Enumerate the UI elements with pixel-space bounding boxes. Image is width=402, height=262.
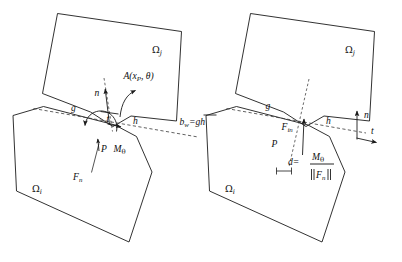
right-point-g-label: g xyxy=(266,100,271,111)
right-tangent-vector-arrow xyxy=(357,138,377,143)
figure-container: n t A(xP, θ) g h Mθ P Fn xyxy=(0,0,402,262)
left-tangent-vector-label: t xyxy=(107,113,110,124)
left-moment-label: Mθ xyxy=(113,143,126,156)
right-upper-domain-polygon xyxy=(236,14,375,127)
right-point-P-label: P xyxy=(271,138,278,149)
left-lower-domain-polygon xyxy=(13,107,152,243)
right-normal-vector-label: n xyxy=(364,109,369,120)
right-fraction-numerator: Mθ xyxy=(311,151,324,164)
left-rotation-operator-label: A(xP, θ) xyxy=(123,70,154,82)
contact-mechanics-diagram: n t A(xP, θ) g h Mθ P Fn xyxy=(0,0,402,262)
equation-text: bw=gh xyxy=(180,116,206,128)
rotation-op-head: A(x xyxy=(123,70,138,82)
right-interface-force-label: Fin xyxy=(281,121,294,133)
left-normal-force-leader xyxy=(92,144,100,173)
right-equals-symbol: = xyxy=(293,156,299,167)
left-contact-plane-dashed xyxy=(34,109,199,138)
left-upper-domain-label: Ωj xyxy=(152,44,163,57)
left-omega-i-sub: i xyxy=(40,188,42,196)
right-point-h-label: h xyxy=(326,115,331,126)
contact-width-equation: bw=gh xyxy=(180,115,217,128)
left-moment-sub: θ xyxy=(122,148,126,156)
left-normal-force-label: Fn xyxy=(72,171,83,183)
left-point-P-label: P xyxy=(100,143,107,154)
right-Fin-sub: in xyxy=(287,126,293,133)
left-point-h-label: h xyxy=(133,115,138,126)
left-Fn-sub: n xyxy=(79,176,83,183)
left-point-g-label: g xyxy=(71,102,76,113)
right-omega-i-sub: i xyxy=(233,188,235,196)
left-rotation-arrow xyxy=(120,91,136,118)
left-upper-domain-polygon xyxy=(43,14,182,127)
equation-gh: gh xyxy=(195,116,205,127)
right-inclined-dashed-axis xyxy=(289,79,309,167)
right-offset-distance-label: d= xyxy=(288,156,299,167)
right-frac-M-sub: θ xyxy=(320,156,324,164)
left-panel: n t A(xP, θ) g h Mθ P Fn xyxy=(13,14,198,243)
svg-text:A(xP, θ): A(xP, θ) xyxy=(123,70,154,82)
right-tangent-vector-label: t xyxy=(371,125,374,136)
right-fraction-denominator: Fn xyxy=(315,169,326,181)
right-panel: Fin g h P n t d= Mθ Fn xyxy=(206,14,377,243)
left-lower-domain-label: Ωi xyxy=(32,183,42,196)
right-frac-F-sub: n xyxy=(322,174,326,181)
right-lower-domain-label: Ωi xyxy=(225,183,235,196)
right-upper-domain-label: Ωj xyxy=(345,44,356,57)
rotation-op-tail: , θ) xyxy=(141,70,154,82)
left-normal-vector-label: n xyxy=(95,87,100,98)
